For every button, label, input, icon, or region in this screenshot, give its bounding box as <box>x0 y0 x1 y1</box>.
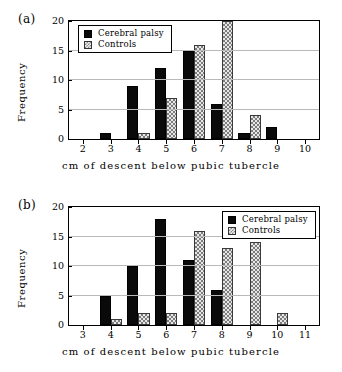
bar-controls-7 <box>222 21 233 139</box>
bar-cerebral-palsy-6 <box>183 51 194 140</box>
legend-label-controls: Controls <box>98 40 136 49</box>
legend-a: Cerebral palsy Controls <box>78 25 172 53</box>
y-tick-mark <box>68 110 72 111</box>
y-tick-mark <box>68 21 72 22</box>
y-tick-label: 20 <box>42 16 64 26</box>
bar-cerebral-palsy-8 <box>238 133 249 139</box>
legend-swatch-cerebral-palsy-icon <box>228 216 236 224</box>
y-tick-label: 5 <box>42 291 64 301</box>
bar-cerebral-palsy-4 <box>127 86 138 139</box>
legend-swatch-cerebral-palsy-icon <box>84 30 92 38</box>
bar-controls-6 <box>166 313 177 325</box>
bar-cerebral-palsy-9 <box>266 127 277 139</box>
y-tick-label: 10 <box>42 261 64 271</box>
panel-label-b: (b) <box>18 198 36 212</box>
figure-container: (a) Frequency 05101520 2345678910 Cerebr… <box>0 0 342 372</box>
bar-cerebral-palsy-7 <box>183 260 194 325</box>
bar-controls-4 <box>138 133 149 139</box>
x-tick-label: 10 <box>267 330 287 340</box>
y-tick-mark <box>68 266 72 267</box>
x-tick-label: 9 <box>267 144 287 154</box>
x-axis-title-b: cm of descent below pubic tubercle <box>0 346 342 357</box>
y-axis-title-b: Frequency <box>16 249 27 309</box>
x-tick-label: 3 <box>101 144 121 154</box>
legend-label-cerebral-palsy: Cerebral palsy <box>242 215 308 224</box>
x-tick-label: 3 <box>73 330 93 340</box>
x-tick-label: 5 <box>156 144 176 154</box>
bar-controls-5 <box>166 98 177 139</box>
legend-swatch-controls-icon <box>228 227 236 235</box>
y-tick-mark <box>68 237 72 238</box>
x-tick-label: 4 <box>128 144 148 154</box>
x-tick-label: 6 <box>156 330 176 340</box>
gridline <box>69 109 319 110</box>
bar-controls-5 <box>138 313 149 325</box>
bar-controls-6 <box>194 45 205 139</box>
bar-cerebral-palsy-5 <box>127 266 138 325</box>
y-tick-label: 15 <box>42 232 64 242</box>
y-tick-mark <box>68 51 72 52</box>
legend-item-controls: Controls <box>228 226 308 235</box>
chart-panel-a: (a) Frequency 05101520 2345678910 Cerebr… <box>0 0 342 186</box>
gridline <box>69 265 319 266</box>
x-tick-label: 7 <box>184 330 204 340</box>
panel-label-a: (a) <box>18 12 35 26</box>
x-tick-label: 7 <box>212 144 232 154</box>
bar-controls-10 <box>277 313 288 325</box>
bar-controls-7 <box>194 231 205 325</box>
y-tick-mark <box>68 139 72 140</box>
y-tick-label: 20 <box>42 202 64 212</box>
bar-cerebral-palsy-3 <box>100 133 111 139</box>
legend-item-controls: Controls <box>84 40 164 49</box>
legend-label-cerebral-palsy: Cerebral palsy <box>98 29 164 38</box>
x-tick-label: 10 <box>295 144 315 154</box>
x-axis-title-a: cm of descent below pubic tubercle <box>0 160 342 171</box>
y-tick-mark <box>68 296 72 297</box>
x-tick-label: 9 <box>240 330 260 340</box>
legend-item-cerebral-palsy: Cerebral palsy <box>84 29 164 38</box>
gridline <box>69 295 319 296</box>
y-tick-label: 5 <box>42 105 64 115</box>
x-tick-label: 8 <box>240 144 260 154</box>
x-tick-label: 4 <box>101 330 121 340</box>
gridline <box>69 79 319 80</box>
legend-b: Cerebral palsy Controls <box>222 211 316 239</box>
x-tick-label: 5 <box>128 330 148 340</box>
y-tick-label: 0 <box>42 134 64 144</box>
y-tick-mark <box>68 80 72 81</box>
bar-cerebral-palsy-4 <box>100 296 111 326</box>
x-tick-label: 8 <box>212 330 232 340</box>
bar-controls-9 <box>250 242 261 325</box>
legend-swatch-controls-icon <box>84 41 92 49</box>
legend-label-controls: Controls <box>242 226 280 235</box>
y-tick-label: 0 <box>42 320 64 330</box>
y-tick-mark <box>68 325 72 326</box>
y-tick-mark <box>68 207 72 208</box>
y-tick-label: 10 <box>42 75 64 85</box>
bar-controls-8 <box>250 115 261 139</box>
y-tick-label: 15 <box>42 46 64 56</box>
x-tick-label: 2 <box>73 144 93 154</box>
x-tick-label: 11 <box>295 330 315 340</box>
bar-controls-8 <box>222 248 233 325</box>
x-tick-label: 6 <box>184 144 204 154</box>
bar-controls-4 <box>111 319 122 325</box>
legend-item-cerebral-palsy: Cerebral palsy <box>228 215 308 224</box>
y-axis-title-a: Frequency <box>16 63 27 123</box>
